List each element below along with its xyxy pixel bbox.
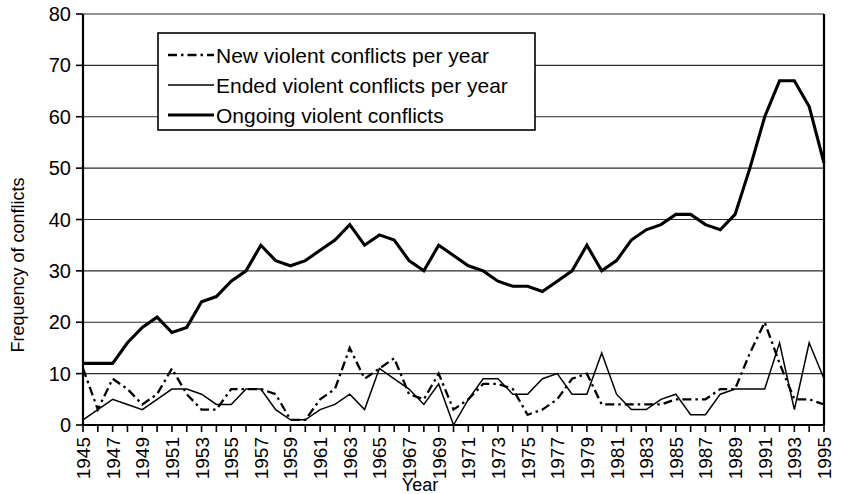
y-tick-label-0: 0	[60, 414, 71, 436]
x-tick-label-1971: 1971	[458, 437, 479, 479]
x-tick-label-1959: 1959	[280, 437, 301, 479]
x-tick-label-1961: 1961	[310, 437, 331, 479]
y-tick-label-80: 80	[49, 3, 71, 25]
y-tick-label-10: 10	[49, 363, 71, 385]
chart-legend: New violent conflicts per yearEnded viol…	[158, 33, 535, 130]
legend-label-2: Ongoing violent conflicts	[216, 104, 444, 127]
x-tick-label-1991: 1991	[755, 437, 776, 479]
y-axis-tick-labels: 01020304050607080	[49, 3, 71, 436]
x-tick-label-1985: 1985	[666, 437, 687, 479]
x-tick-label-1945: 1945	[73, 437, 94, 479]
x-tick-label-1993: 1993	[784, 437, 805, 479]
x-tick-label-1957: 1957	[251, 437, 272, 479]
x-tick-label-1981: 1981	[607, 437, 628, 479]
chart-canvas: 01020304050607080 1945194719491951195319…	[0, 0, 846, 494]
x-tick-label-1977: 1977	[547, 437, 568, 479]
series-line-thin-solid	[83, 343, 824, 425]
y-tick-label-40: 40	[49, 209, 71, 231]
y-tick-label-70: 70	[49, 54, 71, 76]
x-axis-title: Year	[402, 475, 438, 494]
y-tick-label-60: 60	[49, 106, 71, 128]
x-tick-label-1989: 1989	[725, 437, 746, 479]
x-tick-label-1963: 1963	[340, 437, 361, 479]
x-axis-tick-labels: 1945194719491951195319551957195919611963…	[73, 437, 835, 479]
x-tick-label-1973: 1973	[488, 437, 509, 479]
x-tick-label-1979: 1979	[577, 437, 598, 479]
x-tick-label-1953: 1953	[192, 437, 213, 479]
x-tick-label-1951: 1951	[162, 437, 183, 479]
y-axis-title: Frequency of conflicts	[8, 177, 28, 352]
x-tick-label-1967: 1967	[399, 437, 420, 479]
x-tick-label-1955: 1955	[221, 437, 242, 479]
legend-label-1: Ended violent conflicts per year	[216, 74, 508, 97]
x-tick-label-1965: 1965	[369, 437, 390, 479]
x-tick-label-1947: 1947	[103, 437, 124, 479]
x-tick-label-1975: 1975	[518, 437, 539, 479]
x-tick-label-1995: 1995	[814, 437, 835, 479]
x-tick-label-1949: 1949	[132, 437, 153, 479]
conflict-frequency-chart: 01020304050607080 1945194719491951195319…	[0, 0, 846, 494]
x-tick-label-1969: 1969	[429, 437, 450, 479]
x-tick-label-1983: 1983	[636, 437, 657, 479]
legend-label-0: New violent conflicts per year	[216, 44, 489, 67]
y-tick-label-20: 20	[49, 311, 71, 333]
y-tick-label-50: 50	[49, 157, 71, 179]
x-tick-label-1987: 1987	[695, 437, 716, 479]
y-tick-label-30: 30	[49, 260, 71, 282]
